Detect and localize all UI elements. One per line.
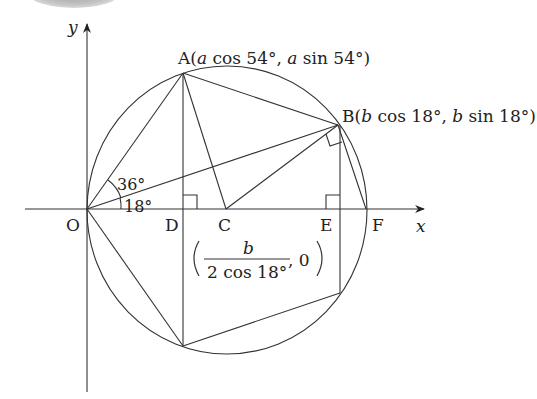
- point-A-label: A(a cos 54°, a sin 54°): [177, 48, 370, 68]
- angle-36-label: 36°: [117, 175, 145, 194]
- c-coord-denominator: 2 cos 18°: [207, 262, 287, 282]
- segment-AC: [183, 73, 226, 209]
- angle-arc-18: [120, 198, 121, 209]
- y-axis-label: y: [67, 17, 78, 37]
- segment-bottom-chord: [183, 293, 340, 346]
- segment-AB: [183, 73, 338, 125]
- angle-18-label: 18°: [124, 197, 152, 216]
- point-F-label: F: [372, 215, 384, 235]
- right-angle-D: [183, 195, 197, 209]
- point-C-coordinate: b 2 cos 18° , 0: [194, 238, 322, 282]
- right-angle-E: [326, 195, 340, 209]
- point-D-label: D: [165, 215, 179, 235]
- x-axis-label: x: [416, 216, 426, 236]
- point-B-label: B(b cos 18°, b sin 18°): [342, 106, 536, 126]
- point-C-label: C: [218, 215, 231, 235]
- geometry-diagram: y x O D C E F A(a cos 54°, a sin 54°) B(…: [0, 0, 537, 399]
- c-coord-numerator: b: [243, 238, 254, 258]
- segment-BF: [338, 125, 366, 209]
- segment-BC: [226, 125, 338, 209]
- point-O-label: O: [66, 215, 80, 235]
- c-coord-tail: , 0: [288, 250, 310, 270]
- point-E-label: E: [320, 215, 332, 235]
